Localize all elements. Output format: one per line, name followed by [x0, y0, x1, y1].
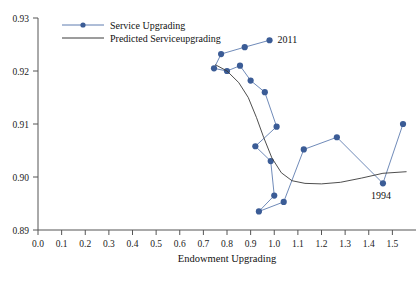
x-tick-label: 1.4 — [363, 239, 375, 249]
data-point — [211, 65, 217, 71]
data-point — [271, 192, 277, 198]
data-point — [400, 121, 406, 127]
x-tick-label: 1.0 — [268, 239, 280, 249]
data-point — [252, 143, 258, 149]
annotation-layer: 20111994 — [278, 34, 391, 201]
data-point — [218, 51, 224, 57]
annotation-label-1994: 1994 — [371, 190, 391, 201]
data-point — [242, 44, 248, 50]
x-tick-label: 0.9 — [245, 239, 257, 249]
x-tick-label: 1.1 — [292, 239, 304, 249]
y-tick-group: 0.890.900.910.920.93 — [12, 14, 38, 236]
y-tick-label: 0.93 — [12, 14, 29, 24]
x-tick-label: 1.3 — [339, 239, 351, 249]
y-tick-label: 0.89 — [12, 226, 29, 236]
annotation-label-2011: 2011 — [278, 34, 298, 45]
x-tick-label: 0.8 — [221, 239, 233, 249]
x-tick-label: 0.2 — [79, 239, 91, 249]
data-point — [380, 180, 386, 186]
data-point — [256, 208, 262, 214]
y-tick-label: 0.92 — [12, 67, 29, 77]
x-tick-label: 0.3 — [103, 239, 115, 249]
x-axis: 0.00.10.20.30.40.50.60.70.80.91.01.11.21… — [32, 230, 416, 264]
data-point — [301, 146, 307, 152]
y-axis: 0.890.900.910.920.93 — [12, 14, 38, 236]
legend-item-label-1: Predicted Serviceupgrading — [110, 33, 221, 44]
legend-swatch-marker-0 — [80, 22, 85, 27]
data-point — [281, 199, 287, 205]
data-point — [237, 63, 243, 69]
x-tick-group: 0.00.10.20.30.40.50.60.70.80.91.01.11.21… — [32, 230, 399, 249]
legend-item-label-0: Service Upgrading — [110, 20, 185, 31]
y-tick-label: 0.90 — [12, 173, 29, 183]
x-tick-label: 0.1 — [56, 239, 68, 249]
data-point — [334, 134, 340, 140]
x-tick-label: 0.6 — [174, 239, 186, 249]
x-tick-label: 1.5 — [386, 239, 398, 249]
data-point — [274, 124, 280, 130]
data-point — [262, 89, 268, 95]
chart-container: 0.890.900.910.920.93 0.00.10.20.30.40.50… — [0, 0, 418, 281]
x-tick-label: 0.7 — [197, 239, 209, 249]
data-point — [266, 37, 272, 43]
series-1 — [215, 65, 406, 184]
series-layer — [211, 37, 407, 214]
x-tick-label: 0.5 — [150, 239, 162, 249]
legend: Service Upgrading Predicted Serviceupgra… — [62, 20, 221, 44]
x-tick-label: 0.4 — [127, 239, 139, 249]
series-0 — [211, 37, 406, 214]
x-tick-label: 1.2 — [316, 239, 328, 249]
data-point — [248, 77, 254, 83]
y-tick-label: 0.91 — [12, 120, 29, 130]
x-tick-label: 0.0 — [32, 239, 44, 249]
scatter-line-chart: 0.890.900.910.920.93 0.00.10.20.30.40.50… — [0, 0, 418, 281]
series-path — [215, 65, 406, 184]
x-axis-title: Endowment Upgrading — [178, 253, 277, 264]
